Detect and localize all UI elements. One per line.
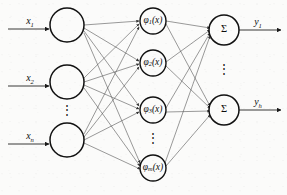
input-label-x1: x1 bbox=[25, 15, 34, 28]
hidden-node-labels: φ1(x) φ2(x) φ3(x) φm(x) bbox=[143, 15, 163, 173]
edge-in3-phi3 bbox=[84, 112, 139, 140]
output-label-sum2: Σ bbox=[221, 103, 227, 114]
edge-in2-phi1 bbox=[84, 24, 139, 78]
edge-phi2-sum1 bbox=[166, 30, 210, 62]
edge-in2-phi2 bbox=[84, 64, 139, 82]
input-labels: x1 x2 xn bbox=[25, 15, 34, 143]
input-node-1[interactable] bbox=[50, 8, 84, 42]
output-arrows bbox=[239, 30, 281, 110]
hidden-label-phi3: φ3(x) bbox=[144, 104, 163, 115]
input-layer-ellipsis-icon: ⋮ bbox=[61, 103, 73, 117]
edge-phim-sum2 bbox=[166, 115, 210, 166]
hidden-label-phim: φm(x) bbox=[143, 162, 163, 173]
edge-in3-phi1 bbox=[84, 27, 139, 134]
output-label-yh: yh bbox=[253, 96, 262, 109]
hidden-nodes bbox=[140, 8, 166, 181]
output-label-sum1: Σ bbox=[221, 23, 227, 34]
neural-network-diagram: φ1(x) φ2(x) φ3(x) φm(x) Σ Σ x1 x2 bbox=[0, 0, 287, 195]
input-label-xn: xn bbox=[25, 130, 34, 143]
input-label-x2: x2 bbox=[25, 72, 34, 85]
edges-hidden-to-output bbox=[165, 21, 210, 166]
edge-phi3-sum2 bbox=[166, 111, 210, 112]
edge-phi2-sum2 bbox=[166, 66, 210, 108]
edge-in3-phim bbox=[84, 143, 140, 169]
input-nodes bbox=[50, 8, 84, 157]
input-node-3[interactable] bbox=[50, 123, 84, 157]
edges-input-to-hidden bbox=[84, 21, 140, 169]
edge-phi1-sum2 bbox=[166, 24, 210, 106]
edge-in1-phi2 bbox=[84, 28, 139, 61]
hidden-label-phi1: φ1(x) bbox=[144, 15, 163, 26]
edge-in1-phi3 bbox=[84, 31, 139, 106]
edge-in1-phi1 bbox=[84, 21, 139, 25]
input-node-2[interactable] bbox=[50, 65, 84, 99]
edge-phi3-sum1 bbox=[166, 33, 210, 108]
hidden-label-phi2: φ2(x) bbox=[144, 57, 163, 68]
edge-phi1-sum1 bbox=[166, 21, 210, 28]
output-layer-ellipsis-icon: ⋮ bbox=[218, 62, 230, 76]
edge-in1-phim bbox=[84, 33, 140, 163]
output-label-y1: y1 bbox=[253, 16, 262, 29]
hidden-layer-ellipsis-icon: ⋮ bbox=[147, 131, 159, 145]
edge-in2-phi3 bbox=[84, 85, 139, 109]
edge-in2-phim bbox=[84, 88, 140, 166]
input-arrows bbox=[8, 29, 49, 144]
edge-phim-sum1 bbox=[165, 36, 210, 163]
network-canvas: φ1(x) φ2(x) φ3(x) φm(x) Σ Σ x1 x2 bbox=[0, 0, 287, 195]
